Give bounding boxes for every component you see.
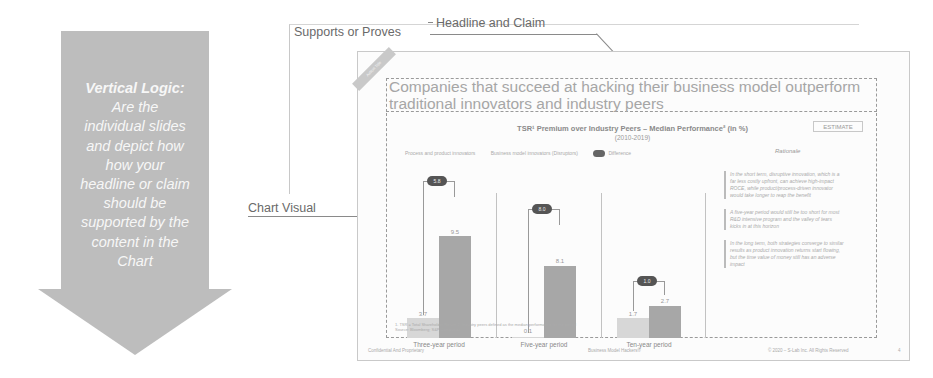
bar-business-ten-year bbox=[649, 306, 681, 338]
bar-business-five-year bbox=[544, 266, 576, 338]
headline-underline bbox=[430, 34, 597, 35]
rationale-item: In the short term, disruptive innovation… bbox=[724, 171, 844, 199]
group-separator bbox=[601, 193, 602, 338]
arrow-heading: Vertical Logic: bbox=[61, 79, 209, 98]
value-label: 9.5 bbox=[440, 229, 470, 235]
page-number: 4 bbox=[898, 348, 901, 353]
difference-bubble: 5.8 bbox=[427, 176, 447, 186]
arrow-line: Chart bbox=[117, 253, 152, 269]
chart-legend: Process and product innovators Business … bbox=[405, 150, 645, 157]
rationale-item: A five-year period would still be too sh… bbox=[724, 209, 844, 230]
footer-confidential: Confidential And Proprietary bbox=[368, 348, 424, 353]
slide-thumbnail: Action Title Companies that succeed at h… bbox=[357, 51, 910, 361]
content-box: ESTIMATE TSR¹ Premium over Industry Peer… bbox=[386, 113, 877, 338]
footer-copyright: © 2020 – S-Lab Inc. All Rights Reserved bbox=[768, 348, 849, 353]
supports-label: Supports or Proves bbox=[294, 25, 401, 39]
value-label: 2.7 bbox=[650, 298, 680, 304]
bar-chart: 3.7 9.5 5.8 Three-year period 0.1 8.1 8.… bbox=[387, 163, 717, 338]
slide-headline: Companies that succeed at hacking their … bbox=[389, 79, 879, 112]
arrow-caption: Vertical Logic: Are the individual slide… bbox=[61, 79, 209, 271]
arrow-line: supported by the bbox=[81, 214, 189, 230]
headline-pointer-dot bbox=[428, 22, 433, 23]
chart-subtitle: (2010-2019) bbox=[387, 134, 878, 141]
vertical-logic-arrow: Vertical Logic: Are the individual slide… bbox=[38, 31, 238, 359]
footer-brand: Business Model Hackers® bbox=[588, 348, 641, 353]
arrow-line: content in the bbox=[91, 234, 178, 250]
group-separator bbox=[705, 193, 706, 338]
difference-bracket bbox=[423, 181, 439, 315]
difference-bubble-icon bbox=[593, 150, 605, 157]
difference-bubble: 1.0 bbox=[637, 276, 657, 286]
legend-item-difference: Difference bbox=[608, 150, 631, 156]
group-separator bbox=[496, 193, 497, 338]
chart-visual-label: Chart Visual bbox=[248, 201, 316, 215]
bar-process-ten-year bbox=[617, 318, 649, 338]
value-label: 8.1 bbox=[545, 258, 575, 264]
category-label: Three-year period bbox=[399, 341, 479, 348]
legend-item-process: Process and product innovators bbox=[405, 150, 475, 156]
legend-item-business: Business model innovators (Disruptors) bbox=[491, 150, 578, 156]
arrow-line: headline or claim bbox=[80, 176, 190, 192]
category-label: Ten-year period bbox=[609, 341, 689, 348]
difference-bubble: 8.0 bbox=[532, 204, 552, 214]
source-note: Source: Bloomberg; S&P Compustat bbox=[395, 327, 460, 332]
headline-label: Headline and Claim bbox=[436, 16, 545, 30]
arrow-line: how your bbox=[106, 157, 165, 173]
arrow-line: Are the bbox=[112, 99, 159, 115]
headline-box: Companies that succeed at hacking their … bbox=[386, 78, 877, 112]
difference-bracket bbox=[528, 209, 544, 333]
arrow-line: individual slides bbox=[84, 118, 186, 134]
category-label: Five-year period bbox=[504, 341, 584, 348]
rationale-heading: Rationale bbox=[775, 148, 800, 154]
arrow-down-icon bbox=[38, 289, 232, 355]
value-label: 1.7 bbox=[618, 311, 648, 317]
arrow-line: should be bbox=[104, 195, 167, 211]
arrow-line: and depict how bbox=[86, 138, 184, 154]
chart-title: TSR¹ Premium over Industry Peers – Media… bbox=[387, 124, 878, 133]
rationale-item: In the long term, both strategies conver… bbox=[724, 240, 844, 268]
bar-process-five-year bbox=[512, 337, 544, 338]
